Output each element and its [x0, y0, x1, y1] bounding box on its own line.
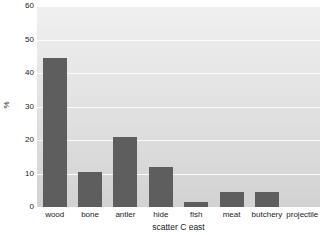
x-tick-label: wood [37, 209, 72, 221]
bar-slot [143, 6, 178, 207]
x-tick-label: meat [214, 209, 249, 221]
x-tick-label: butchery [249, 209, 284, 221]
bar[interactable] [78, 172, 102, 207]
bar[interactable] [255, 192, 279, 207]
bar-slot [72, 6, 107, 207]
bar-slot [249, 6, 284, 207]
bar-series [37, 6, 320, 207]
bar[interactable] [184, 202, 208, 207]
x-tick-label: bone [72, 209, 107, 221]
bar-slot [214, 6, 249, 207]
bar[interactable] [113, 137, 137, 207]
plot-area [37, 6, 320, 207]
bar-slot [37, 6, 72, 207]
bar-chart: % 60 50 40 30 20 10 0 woodboneantlerhide… [0, 0, 326, 235]
y-tick-label: 60 [10, 2, 34, 10]
y-tick-label: 0 [10, 203, 34, 211]
x-tick-label: projectile [285, 209, 320, 221]
x-axis-label: scatter C east [37, 222, 320, 232]
y-tick-label: 20 [10, 136, 34, 144]
bar-slot [179, 6, 214, 207]
x-tick-label: fish [179, 209, 214, 221]
x-axis-tick-labels: woodboneantlerhidefishmeatbutcheryprojec… [37, 209, 320, 221]
bar[interactable] [220, 192, 244, 207]
y-tick-label: 30 [10, 103, 34, 111]
x-tick-label: antler [108, 209, 143, 221]
bar[interactable] [43, 58, 67, 207]
y-axis-tick-labels: 60 50 40 30 20 10 0 [10, 0, 34, 215]
y-tick-label: 10 [10, 170, 34, 178]
y-tick-label: 40 [10, 69, 34, 77]
bar[interactable] [149, 167, 173, 207]
bar-slot [108, 6, 143, 207]
x-tick-label: hide [143, 209, 178, 221]
bar-slot [285, 6, 320, 207]
y-tick-label: 50 [10, 36, 34, 44]
